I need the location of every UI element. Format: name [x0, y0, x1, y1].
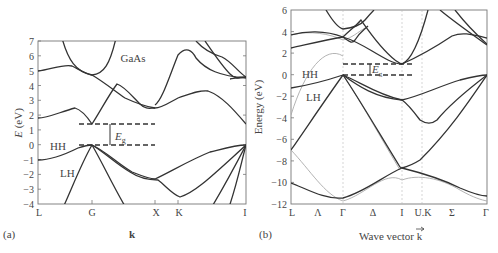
xtick-label: I: [243, 207, 246, 218]
panel-a-x-tick-labels: L G X K I: [36, 207, 247, 218]
lh-label: LH: [60, 167, 75, 179]
panel-a-label: (a): [3, 228, 16, 241]
xtick-label: L: [36, 207, 42, 218]
ytick-label: 0: [282, 70, 287, 81]
xtick-label: Λ: [314, 207, 322, 218]
panel-b-bands: [291, 10, 487, 201]
ytick-label: 4: [29, 81, 34, 92]
panel-b-x-axis-label: Wave vector k: [359, 230, 423, 242]
ytick-label: 2: [29, 110, 34, 121]
ytick-label: −6: [276, 134, 287, 145]
panel-a: 7 6 5 4 3 2 1 0 −1 −2 −3 −4 E (eV) L G X…: [3, 36, 247, 241]
material-label: GaAs: [120, 52, 145, 64]
ytick-label: −4: [276, 113, 287, 124]
ytick-label: 6: [282, 5, 287, 16]
xtick-label: Σ: [449, 207, 455, 218]
gap-label: Eg: [371, 63, 383, 78]
panel-a-y-axis-label: E (eV): [12, 108, 25, 139]
xtick-label: K: [175, 207, 183, 218]
xtick-label: X: [152, 207, 160, 218]
ytick-label: −3: [23, 184, 34, 195]
xtick-label: L: [289, 207, 295, 218]
panel-a-x-ticks: [92, 200, 178, 204]
ytick-label: 7: [29, 36, 34, 47]
xtick-label: U.K: [415, 207, 433, 218]
ytick-label: −8: [276, 156, 287, 167]
ytick-label: 1: [29, 125, 34, 136]
ytick-label: 3: [29, 95, 34, 106]
ytick-label: 4: [282, 27, 287, 38]
ytick-label: −2: [23, 169, 34, 180]
ytick-label: −4: [23, 199, 34, 210]
xtick-label: I: [400, 207, 403, 218]
ytick-label: 5: [29, 66, 34, 77]
panel-b-x-tick-labels: L Λ Γ Δ I U.K Σ Γ: [289, 207, 489, 218]
panel-b-label: (b): [259, 228, 272, 241]
ytick-label: −2: [276, 91, 287, 102]
ytick-label: −1: [23, 155, 34, 166]
ytick-label: −12: [271, 199, 287, 210]
lh-label: LH: [306, 91, 321, 103]
panel-b: 6 4 2 0 −2 −4 −6 −8 −10 −12 Energy (eV) …: [252, 5, 489, 242]
panel-a-x-axis-label: k: [129, 228, 136, 240]
xtick-label: Γ: [340, 207, 346, 218]
hh-label: HH: [302, 68, 318, 80]
ytick-label: 6: [29, 51, 34, 62]
band-structure-figure: 7 6 5 4 3 2 1 0 −1 −2 −3 −4 E (eV) L G X…: [0, 0, 498, 253]
ytick-label: 2: [282, 48, 287, 59]
xtick-label: Δ: [370, 207, 377, 218]
hh-label: HH: [50, 140, 66, 152]
ytick-label: −10: [271, 177, 287, 188]
panel-b-y-tick-labels: 6 4 2 0 −2 −4 −6 −8 −10 −12: [271, 5, 287, 210]
xtick-label: G: [88, 207, 95, 218]
panel-a-y-tick-labels: 7 6 5 4 3 2 1 0 −1 −2 −3 −4: [23, 36, 34, 210]
gap-label: Eg: [114, 130, 126, 145]
ytick-label: 0: [29, 140, 34, 151]
xtick-label: Γ: [483, 207, 489, 218]
panel-b-y-axis-label: Energy (eV): [252, 79, 265, 134]
